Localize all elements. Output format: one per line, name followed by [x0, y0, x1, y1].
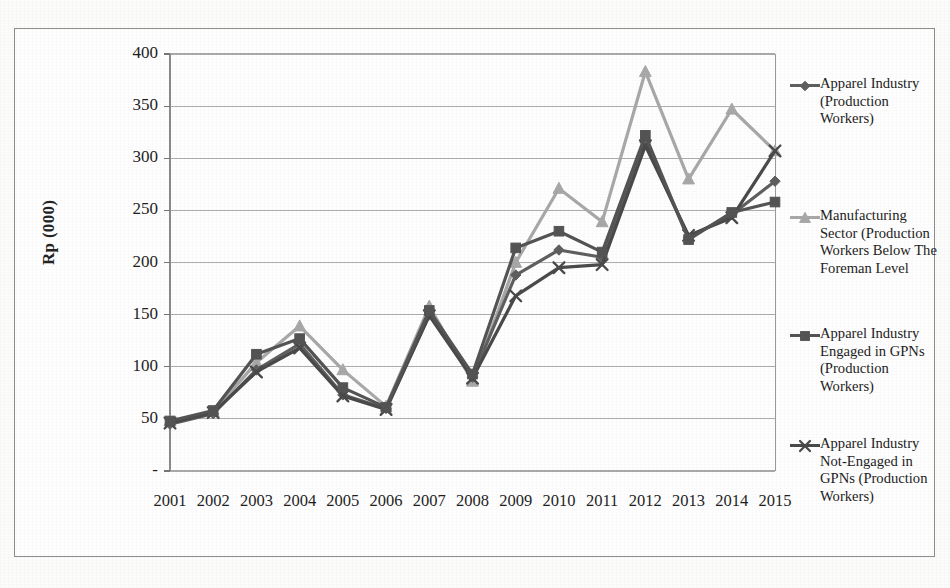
data-point-square — [208, 406, 218, 416]
series-layer — [164, 66, 781, 430]
data-point-square — [424, 306, 434, 316]
legend-item-label: Apparel Industry (Production Workers) — [820, 75, 942, 128]
legend-item-label: Manufacturing Sector (Production Workers… — [820, 207, 942, 277]
data-point-square — [468, 369, 478, 379]
chart-frame: Rp (000) -50100150200250300350400 200120… — [14, 28, 935, 557]
data-point-square — [641, 131, 651, 141]
data-point-square — [381, 403, 391, 413]
data-point-square — [727, 208, 737, 218]
triangle-marker — [790, 210, 820, 225]
data-point-square — [684, 235, 694, 245]
gridlines — [170, 54, 775, 471]
legend-item-label: Apparel Industry Engaged in GPNs (Produc… — [820, 325, 942, 395]
data-point-square — [770, 197, 780, 207]
diamond-marker — [790, 78, 820, 93]
data-point-cross — [510, 290, 521, 301]
data-point-triangle — [294, 320, 306, 331]
data-point-square — [597, 247, 607, 257]
legend-item-4[interactable]: Apparel Industry Not-Engaged in GPNs (Pr… — [790, 435, 942, 505]
chart-page: Rp (000) -50100150200250300350400 200120… — [0, 0, 950, 588]
square-marker — [790, 328, 820, 343]
data-point-square — [338, 383, 348, 393]
data-point-square — [252, 349, 262, 359]
cross-marker — [790, 438, 820, 453]
legend-item-2[interactable]: Manufacturing Sector (Production Workers… — [790, 207, 942, 277]
legend-item-label: Apparel Industry Not-Engaged in GPNs (Pr… — [820, 435, 942, 505]
data-point-square — [511, 243, 521, 253]
data-point-square — [295, 334, 305, 344]
data-point-triangle — [553, 182, 565, 193]
data-point-square — [554, 226, 564, 236]
data-point-square — [165, 416, 175, 426]
legend-item-1[interactable]: Apparel Industry (Production Workers) — [790, 75, 942, 128]
data-point-triangle — [639, 66, 651, 77]
legend-item-3[interactable]: Apparel Industry Engaged in GPNs (Produc… — [790, 325, 942, 395]
data-point-triangle — [726, 103, 738, 114]
